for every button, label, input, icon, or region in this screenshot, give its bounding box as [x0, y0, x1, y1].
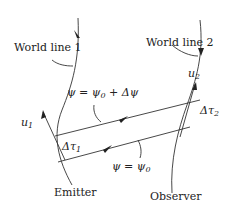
- u2-label: u2: [188, 67, 200, 81]
- world-line-1-leader: [52, 60, 73, 66]
- photon-lower-arrow-icon: [103, 145, 112, 153]
- observer-label: Observer: [150, 190, 202, 203]
- delta-tau-2-label: Δτ2: [199, 104, 219, 118]
- emitter-label: Emitter: [54, 186, 97, 199]
- photon-path-upper: [55, 100, 200, 136]
- psi-lower-leader: [138, 140, 141, 158]
- psi-upper-leader: [94, 105, 101, 122]
- u2-vector: [180, 84, 195, 137]
- delta-tau-1-label: Δτ1: [61, 140, 81, 154]
- world-line-1-arrow-icon: [74, 30, 80, 38]
- world-line-1-label: World line 1: [14, 41, 82, 54]
- spacetime-diagram: World line 1 World line 2 Emitter Observ…: [0, 0, 230, 215]
- world-line-2-arrow-icon: [198, 48, 204, 56]
- u1-label: u1: [21, 116, 33, 130]
- world-line-2-label: World line 2: [146, 36, 214, 49]
- psi-upper-label: ψ = ψ0 + Δψ: [67, 86, 139, 100]
- photon-upper-arrow-icon: [119, 116, 128, 123]
- psi-lower-label: ψ = ψ0: [112, 160, 151, 174]
